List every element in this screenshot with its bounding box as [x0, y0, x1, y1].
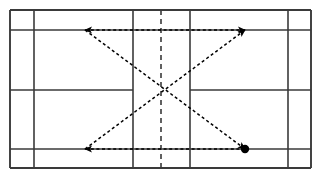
start-position-dot: [241, 145, 249, 153]
position-markers-group: [241, 145, 249, 153]
badminton-court-svg: [0, 0, 322, 178]
court-diagram-container: Badminton court footwork movement patter…: [0, 0, 322, 178]
diagram-background: [0, 0, 322, 178]
